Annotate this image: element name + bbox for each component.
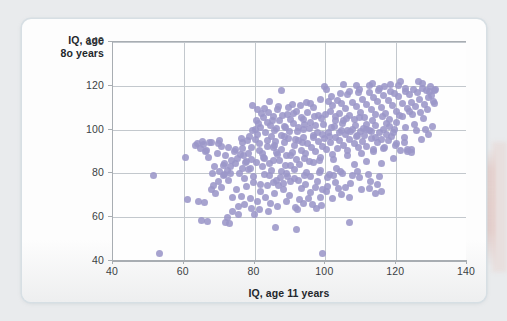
scanned-page: IQ, age 8o years 40608010012014040608010… <box>0 0 507 321</box>
x-tick-label: 120 <box>386 265 404 277</box>
y-tick-label: 120 <box>86 79 104 91</box>
y-tick-mark <box>108 216 112 217</box>
y-tick-mark <box>108 85 112 86</box>
x-axis-line <box>112 260 466 262</box>
x-axis-title: IQ, age 11 years <box>112 287 466 299</box>
x-tick-label: 80 <box>248 265 260 277</box>
x-tick-mark <box>254 260 255 264</box>
x-tick-mark <box>395 260 396 264</box>
x-tick-label: 60 <box>177 265 189 277</box>
gridline-horizontal <box>113 42 466 43</box>
y-tick-label: 140 <box>86 35 104 47</box>
gridline-vertical <box>255 42 256 260</box>
gridline-horizontal <box>113 86 466 87</box>
y-tick-mark <box>108 41 112 42</box>
y-tick-label: 80 <box>92 166 104 178</box>
x-tick-mark <box>466 260 467 264</box>
gridline-vertical <box>184 42 185 260</box>
scatter-figure: IQ, age 8o years 40608010012014040608010… <box>0 0 507 321</box>
gridline-vertical <box>325 42 326 260</box>
x-tick-mark <box>183 260 184 264</box>
y-tick-mark <box>108 172 112 173</box>
x-tick-label: 100 <box>315 265 333 277</box>
gridline-vertical <box>396 42 397 260</box>
y-axis-title-line2: 8o years <box>30 47 104 60</box>
gridline-horizontal <box>113 130 466 131</box>
y-tick-mark <box>108 129 112 130</box>
x-tick-label: 140 <box>457 265 475 277</box>
y-tick-label: 100 <box>86 123 104 135</box>
plot-area <box>112 41 466 260</box>
x-tick-mark <box>112 260 113 264</box>
x-tick-mark <box>324 260 325 264</box>
y-tick-label: 40 <box>92 254 104 266</box>
x-tick-label: 40 <box>106 265 118 277</box>
y-tick-label: 60 <box>92 210 104 222</box>
gridline-horizontal <box>113 217 466 218</box>
gridline-horizontal <box>113 173 466 174</box>
